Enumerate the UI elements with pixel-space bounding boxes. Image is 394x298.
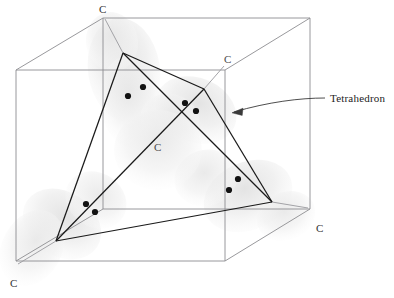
tetrahedron-in-cube-diagram [0, 0, 394, 298]
electron-dot [182, 100, 188, 106]
atom-label-c-top: C [99, 4, 106, 15]
electron-dot [140, 84, 146, 90]
annotation-leader [232, 98, 325, 115]
orbital-lobe-group [0, 8, 323, 297]
electron-dot [92, 209, 98, 215]
electron-dot [83, 201, 89, 207]
annotation-curve [234, 98, 325, 112]
atom-label-c-lower-left: C [10, 278, 17, 289]
atom-label-c-center: C [154, 142, 161, 153]
atom-label-c-lower-right: C [316, 223, 323, 234]
electron-dot [226, 187, 232, 193]
cube-edge-connect-top-right [225, 18, 310, 70]
tetrahedron-annotation-label: Tetrahedron [330, 93, 385, 104]
electron-dot [193, 108, 199, 114]
electron-dot [125, 93, 131, 99]
electron-dot [235, 176, 241, 182]
figure-canvas: C C C C C Tetrahedron [0, 0, 394, 298]
atom-label-c-upper-right: C [224, 54, 231, 65]
